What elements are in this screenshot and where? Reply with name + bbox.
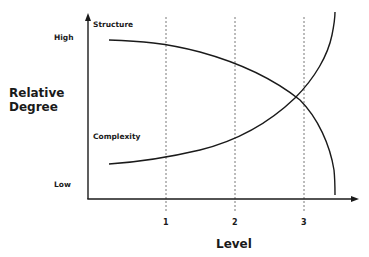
structure-curve [109, 40, 335, 195]
y-axis-title-line2: Degree [9, 101, 64, 115]
x-tick-1: 1 [163, 219, 169, 227]
x-axis-arrow-icon [351, 196, 359, 202]
y-tick-low: Low [54, 181, 71, 189]
complexity-curve [109, 12, 335, 164]
y-axis-title-line1: Relative [9, 87, 64, 101]
x-tick-2: 2 [232, 219, 238, 227]
y-axis-title: Relative Degree [9, 87, 64, 115]
y-axis-arrow-icon [85, 13, 91, 21]
x-axis-title: Level [216, 238, 252, 252]
complexity-label: Complexity [93, 133, 140, 141]
x-tick-3: 3 [301, 219, 307, 227]
y-tick-high: High [54, 34, 74, 42]
structure-label: Structure [93, 21, 133, 29]
